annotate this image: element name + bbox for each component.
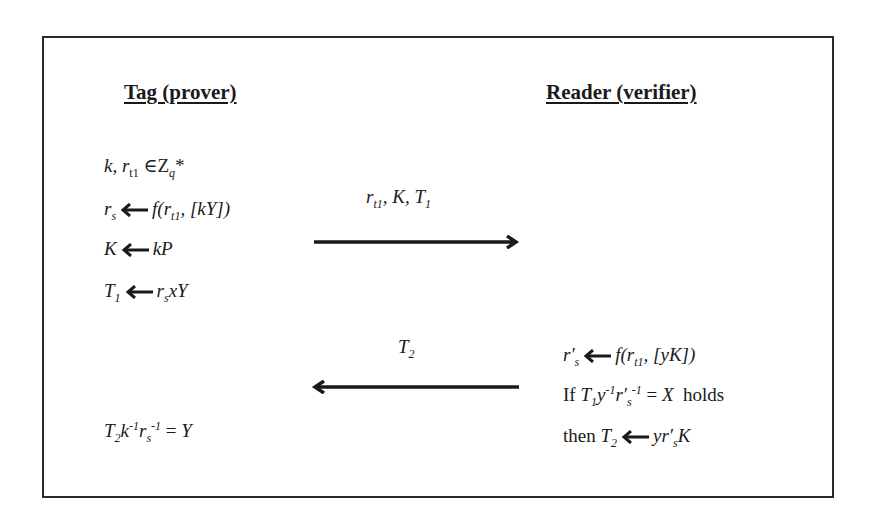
left-arrow-icon xyxy=(121,240,149,262)
left-arrow-icon xyxy=(583,346,611,368)
left-arrow-icon xyxy=(621,427,649,449)
reader-verifier-heading: Reader (verifier) xyxy=(546,80,697,105)
left-arrow-icon xyxy=(311,380,519,394)
message-1-label: rt1, K, T1 xyxy=(366,186,431,208)
tag-prover-heading: Tag (prover) xyxy=(124,80,237,105)
left-arrow-icon xyxy=(125,282,153,304)
reader-step-rs-prime: r′sf(rt1, [yK]) xyxy=(563,344,695,368)
tag-step-K: KkP xyxy=(104,238,173,262)
reader-step-check: If T1y-1r′s-1 = X holds xyxy=(563,384,724,406)
tag-step-verify: T2k-1rs-1 = Y xyxy=(104,420,192,442)
tag-step-init: k, rt1 ∈Zq* xyxy=(104,154,185,177)
left-arrow-icon xyxy=(120,200,148,222)
right-arrow-icon xyxy=(314,235,520,249)
reader-step-T2: then T2yr′sK xyxy=(563,425,690,449)
tag-step-rs: rsf(rt1, [kY]) xyxy=(104,198,230,222)
message-2-label: T2 xyxy=(398,336,415,358)
tag-step-T1: T1rsxY xyxy=(104,280,188,304)
